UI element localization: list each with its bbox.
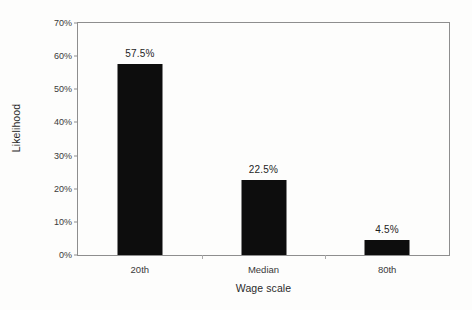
- y-axis-tick-label: 20%: [54, 184, 72, 194]
- y-axis-tick-label: 40%: [54, 117, 72, 127]
- x-axis-tick-label: Median: [248, 264, 279, 275]
- y-axis-tick-label: 70%: [54, 18, 72, 28]
- y-axis-tick-mark: [74, 221, 78, 222]
- y-axis-tick-label: 60%: [54, 51, 72, 61]
- x-axis-tick-mark: [202, 255, 203, 259]
- x-axis-tick-label: 80th: [378, 264, 397, 275]
- bar-chart-figure: Likelihood 0%10%20%30%40%50%60%70%57.5%2…: [0, 0, 472, 310]
- bar-value-label: 57.5%: [125, 48, 154, 59]
- y-axis-tick-mark: [74, 23, 78, 24]
- x-axis-tick-label: 20th: [131, 264, 150, 275]
- y-axis-tick-label: 10%: [54, 217, 72, 227]
- y-axis-tick-label: 0%: [59, 250, 72, 260]
- y-axis-tick-mark: [74, 188, 78, 189]
- y-axis-tick-mark: [74, 255, 78, 256]
- x-axis-tick-mark: [325, 255, 326, 259]
- y-axis-tick-mark: [74, 155, 78, 156]
- x-axis-title: Wage scale: [77, 282, 450, 294]
- bar: [365, 240, 410, 255]
- y-axis-tick-mark: [74, 89, 78, 90]
- bar: [117, 64, 162, 255]
- y-axis-title-text: Likelihood: [10, 104, 22, 152]
- plot-area: 0%10%20%30%40%50%60%70%57.5%20th22.5%Med…: [77, 22, 450, 256]
- y-axis-title: Likelihood: [2, 0, 30, 256]
- y-axis-tick-label: 30%: [54, 151, 72, 161]
- bar-value-label: 22.5%: [249, 164, 278, 175]
- y-axis-tick-mark: [74, 56, 78, 57]
- y-axis-tick-label: 50%: [54, 84, 72, 94]
- y-axis-tick-mark: [74, 122, 78, 123]
- bar-value-label: 4.5%: [375, 224, 399, 235]
- bar: [241, 180, 286, 255]
